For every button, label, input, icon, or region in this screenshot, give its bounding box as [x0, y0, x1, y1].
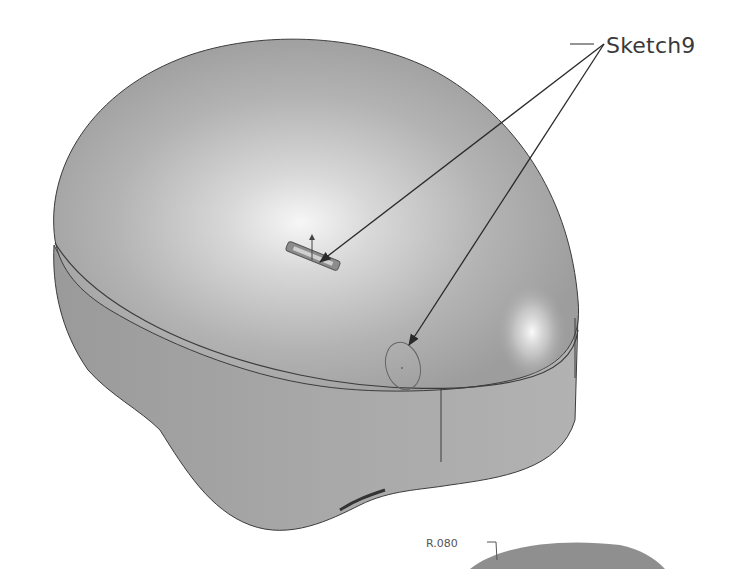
callout-label-sketch9: Sketch9: [606, 33, 696, 58]
second-part-top: [470, 542, 665, 569]
cad-model-drawing: [0, 0, 755, 569]
dimension-label-radius: R.080: [426, 537, 458, 550]
cad-figure: Sketch9 R.080: [0, 0, 755, 569]
